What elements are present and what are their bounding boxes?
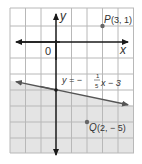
svg-text:x − 3: x − 3 (100, 78, 121, 88)
x-axis-label: x (119, 43, 127, 57)
point-q-name: Q (89, 122, 97, 133)
line-equation: y = − 1 5 x − 3 (61, 73, 121, 89)
origin-label: 0 (45, 45, 51, 57)
y-axis-label: y (59, 9, 67, 23)
coordinate-graph: y x 0 P (3, 1) Q (2, − 5) y = − 1 5 x − … (0, 0, 142, 164)
svg-text:5: 5 (95, 83, 99, 89)
point-p-coords: (3, 1) (111, 15, 132, 25)
point-p-name: P (104, 14, 111, 25)
y-intercept-dot (54, 88, 58, 92)
point-q-coords: (2, − 5) (97, 123, 126, 133)
svg-text:y = −: y = − (61, 75, 82, 85)
